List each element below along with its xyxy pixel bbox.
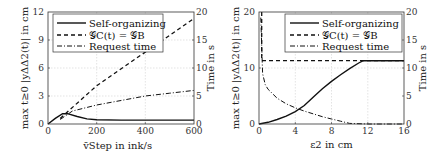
- svg-text:12: 12: [33, 7, 44, 17]
- series-self-organizing: [48, 114, 194, 124]
- svg-text:5: 5: [406, 91, 412, 101]
- svg-text:15: 15: [406, 35, 418, 45]
- legend-right: Self-organizing 𝒢C(t) = 𝒢B Request time: [285, 14, 402, 52]
- svg-text:0: 0: [256, 126, 262, 136]
- yticks-left-right-plot: 0 10 20: [244, 7, 256, 129]
- series-request-time: [60, 90, 194, 119]
- svg-text:15: 15: [196, 35, 208, 45]
- ylabel-right: Time in s: [417, 45, 428, 91]
- xlabel-left-unit: in ink/s: [115, 140, 152, 151]
- svg-text:𝒢C(t) = 𝒢B: 𝒢C(t) = 𝒢B: [322, 30, 378, 41]
- xlabel-left-main: v̄Step: [82, 140, 112, 151]
- svg-text:3: 3: [38, 91, 44, 101]
- svg-text:20: 20: [244, 7, 256, 17]
- yticks-left: 0 3 6 9 12: [33, 7, 45, 129]
- yticks-right: 0 5 10 15 20: [406, 7, 418, 129]
- svg-text:5: 5: [196, 91, 202, 101]
- xlabel-right: ε2 in cm: [310, 139, 353, 150]
- svg-text:12: 12: [362, 126, 373, 136]
- svg-text:Self-organizing: Self-organizing: [322, 18, 399, 29]
- svg-text:0: 0: [38, 119, 44, 129]
- svg-text:6: 6: [38, 63, 44, 73]
- svg-text:10: 10: [406, 63, 418, 73]
- ylabel-right-left-plot: Time in s: [205, 45, 216, 91]
- svg-text:Self-organizing: Self-organizing: [89, 18, 166, 29]
- plot-left: 0 200 400 600 0 3 6 9 12 0 5 10 15 20 ma…: [19, 6, 216, 151]
- svg-text:10: 10: [244, 63, 256, 73]
- plot-right: 0 4 8 12 16 0 10 20 0 5 10 15 20 max t≥0…: [230, 6, 428, 150]
- svg-text:400: 400: [137, 126, 154, 136]
- svg-text:𝒢C(t) = 𝒢B: 𝒢C(t) = 𝒢B: [89, 30, 145, 41]
- svg-text:8: 8: [329, 126, 335, 136]
- svg-text:Request time: Request time: [89, 41, 156, 52]
- svg-text:0: 0: [406, 119, 412, 129]
- svg-text:20: 20: [406, 7, 418, 17]
- svg-text:0: 0: [45, 126, 51, 136]
- xticks-left: 0 200 400 600: [45, 126, 203, 136]
- svg-text:0: 0: [196, 119, 202, 129]
- svg-text:200: 200: [88, 126, 105, 136]
- xticks-right: 0 4 8 12 16: [256, 126, 410, 136]
- svg-text:Request time: Request time: [322, 41, 389, 52]
- legend-left: Self-organizing 𝒢C(t) = 𝒢B Request time: [53, 14, 166, 52]
- svg-text:0: 0: [249, 119, 255, 129]
- ylabel-left-right-plot: max t≥0 |yΔΔ2(t)| in cm: [230, 6, 242, 129]
- svg-text:4: 4: [292, 126, 298, 136]
- svg-text:9: 9: [38, 35, 44, 45]
- ylabel-left: max t≥0 |yΔΔ2(t)| in cm: [19, 6, 31, 129]
- svg-text:20: 20: [196, 7, 208, 17]
- figure: 0 200 400 600 0 3 6 9 12 0 5 10 15 20 ma…: [0, 0, 444, 159]
